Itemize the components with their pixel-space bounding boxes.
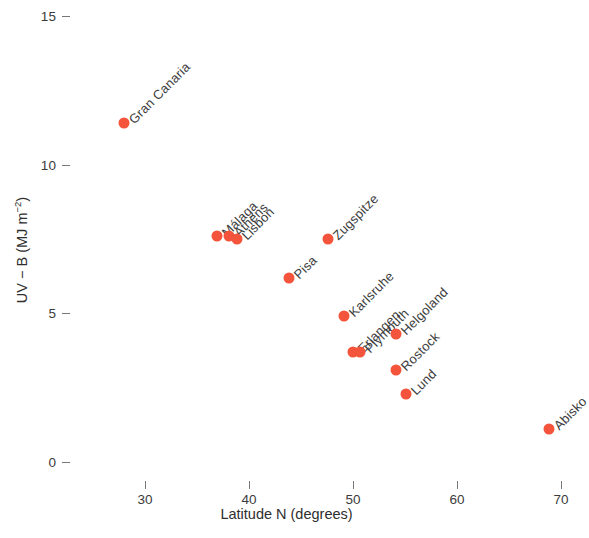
data-point: [543, 424, 554, 435]
data-point-label: Pisa: [290, 252, 319, 281]
data-point: [390, 329, 401, 340]
data-point-label: Zugspitze: [330, 191, 382, 243]
data-point: [338, 311, 349, 322]
data-point: [211, 231, 222, 242]
data-point-label: Abisko: [550, 394, 589, 433]
data-point: [390, 364, 401, 375]
data-point-label: Lund: [408, 366, 440, 398]
data-point: [231, 234, 242, 245]
data-point-label: Gran Canaria: [126, 59, 193, 126]
data-point-label: Rostock: [397, 329, 442, 374]
